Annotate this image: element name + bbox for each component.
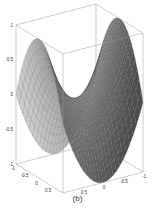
z-axis-ticks: 10.50-0.5-1: [5, 23, 13, 167]
svg-text:-1: -1: [11, 166, 15, 171]
svg-text:0.5: 0.5: [45, 188, 52, 193]
svg-text:-0.5: -0.5: [120, 179, 128, 184]
figure-caption: (b): [0, 194, 155, 203]
saddle-surface: [16, 18, 143, 183]
saddle-surface-plot: 10.50-0.5-1 -1-0.500.51 10.50-0.5-1: [0, 0, 155, 195]
svg-text:0: 0: [10, 92, 13, 97]
svg-text:-1: -1: [142, 174, 146, 179]
svg-text:-0.5: -0.5: [5, 127, 13, 132]
svg-text:0.5: 0.5: [7, 57, 14, 62]
svg-text:-0.5: -0.5: [21, 173, 29, 178]
svg-text:0: 0: [35, 181, 38, 186]
svg-text:1: 1: [10, 23, 13, 28]
svg-text:0: 0: [103, 185, 106, 190]
x-axis-ticks: -1-0.500.51: [11, 166, 62, 195]
